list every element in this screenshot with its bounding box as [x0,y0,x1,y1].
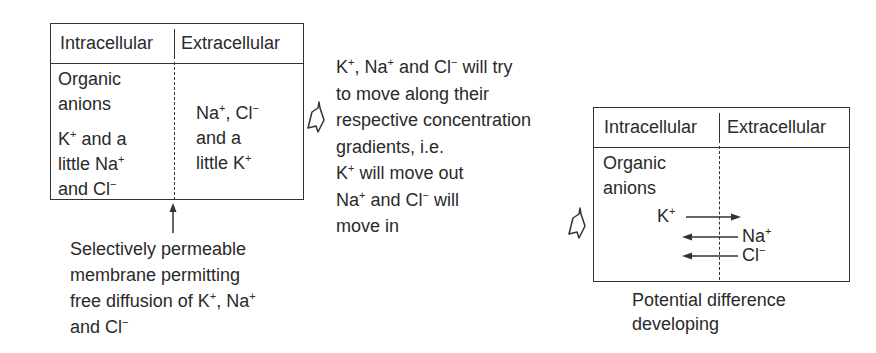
left-extra-line-3: little K+ [196,151,259,176]
middle-line-1: K+, Na+ and Cl− will try [336,54,531,81]
right-organic-line-1: Organic [603,151,666,176]
right-header-divider [719,113,720,143]
middle-line-2: to move along their [336,81,531,108]
left-ion-line-1: K+ and a [58,127,127,152]
right-header-extracellular: Extracellular [727,117,826,138]
right-organic-line-2: anions [603,176,666,201]
middle-line-7: move in [336,213,531,240]
cl-ion-label: Cl− [742,243,765,268]
left-cell-diagram: Intracellular Extracellular Organic anio… [50,23,304,200]
left-extracellular-text: Na+, Cl− and a little K+ [196,101,259,176]
na-influx-arrow-icon [682,232,738,242]
left-extra-line-1: Na+, Cl− [196,101,259,126]
left-header-intracellular: Intracellular [60,33,153,54]
hollow-arrow-icon [306,100,326,134]
left-organic-line-1: Organic [58,67,127,92]
membrane-pointer-arrow-icon [168,203,178,233]
cl-influx-arrow-icon [682,251,738,261]
membrane-caption-line-3: free diffusion of K+, Na+ [70,288,256,314]
right-intracellular-text: Organic anions [603,151,666,201]
middle-explanation-text: K+, Na+ and Cl− will try to move along t… [336,54,531,240]
potential-caption: Potential difference developing [632,288,786,336]
left-membrane-line [174,62,175,200]
left-header-divider [174,29,175,59]
hollow-arrow-icon [567,206,587,240]
potential-caption-line-1: Potential difference [632,288,786,312]
middle-line-3: respective concentration [336,107,531,134]
left-intracellular-text: Organic anions K+ and a little Na+ and C… [58,67,127,202]
left-header-extracellular: Extracellular [181,33,280,54]
membrane-caption-line-4: and Cl− [70,314,256,340]
membrane-caption-line-1: Selectively permeable [70,236,256,262]
right-cell-diagram: Intracellular Extracellular Organic anio… [593,107,850,282]
left-header: Intracellular Extracellular [51,24,303,64]
k-ion-label: K+ [657,204,675,229]
k-efflux-arrow-icon [686,212,742,222]
left-organic-line-2: anions [58,92,127,117]
left-ion-line-2: little Na+ [58,152,127,177]
middle-line-6: Na+ and Cl− will [336,187,531,214]
potential-caption-line-2: developing [632,312,786,336]
membrane-caption-line-2: membrane permitting [70,262,256,288]
left-ion-line-3: and Cl− [58,177,127,202]
left-extra-line-2: and a [196,126,259,151]
middle-line-5: K+ will move out [336,160,531,187]
right-header: Intracellular Extracellular [594,108,849,148]
middle-line-4: gradients, i.e. [336,134,531,161]
membrane-caption: Selectively permeable membrane permittin… [70,236,256,340]
right-header-intracellular: Intracellular [604,117,697,138]
